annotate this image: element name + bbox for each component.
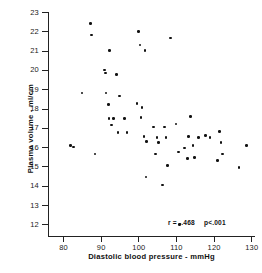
data-point (143, 135, 146, 138)
data-point (186, 157, 189, 160)
scatter-plot-figure: 121314151617181920212223 809010011012013… (0, 0, 262, 273)
data-point (136, 102, 139, 105)
data-point (221, 153, 224, 156)
data-point (163, 126, 166, 129)
data-point (107, 103, 110, 106)
y-axis-tick-label: 12 (30, 221, 39, 229)
data-point (117, 131, 120, 134)
data-point (216, 159, 219, 162)
statistics-annotation: r = -.468p<.001 (168, 219, 226, 226)
data-point (140, 116, 143, 119)
data-point (193, 156, 196, 159)
data-point (183, 147, 186, 150)
y-axis-tick: 17 (42, 128, 48, 129)
data-point (218, 130, 221, 133)
data-point (103, 69, 106, 72)
y-axis-tick: 20 (42, 70, 48, 71)
data-point (166, 164, 169, 167)
x-axis-tick-label: 100 (132, 244, 145, 252)
x-axis-tick-label: 90 (97, 244, 106, 252)
data-point (108, 49, 111, 52)
x-axis-tick: 100 (138, 236, 139, 242)
data-point (145, 140, 148, 143)
y-axis-tick: 12 (42, 224, 48, 225)
data-point (141, 106, 144, 109)
data-point (187, 135, 190, 138)
data-point (110, 124, 113, 127)
x-axis-tick-label: 120 (208, 244, 221, 252)
data-point (144, 49, 147, 52)
x-axis-tick: 120 (214, 236, 215, 242)
data-point (209, 136, 212, 139)
data-point (112, 117, 115, 120)
data-point (105, 92, 108, 95)
data-point (104, 72, 107, 75)
x-axis-tick: 80 (63, 236, 64, 242)
data-point (145, 176, 148, 179)
data-points-layer (0, 0, 262, 273)
data-point (161, 184, 164, 187)
y-axis-title: Plasma volume - ml/cm (26, 49, 35, 209)
data-point (69, 144, 72, 147)
x-axis-tick: 110 (176, 236, 177, 242)
data-point (152, 126, 155, 129)
x-axis-line (48, 236, 255, 237)
data-point (123, 117, 126, 120)
data-point (165, 136, 168, 139)
data-point (72, 146, 75, 149)
pvalue-text: p<.001 (204, 219, 226, 226)
data-point (238, 166, 241, 169)
data-point (94, 153, 97, 156)
x-axis-tick: 90 (101, 236, 102, 242)
data-point (139, 44, 142, 47)
data-point (220, 141, 223, 144)
data-point (137, 30, 140, 33)
y-axis-tick: 18 (42, 109, 48, 110)
y-axis-tick: 22 (42, 31, 48, 32)
y-axis-line (48, 12, 49, 236)
data-point (189, 115, 192, 118)
x-axis-tick-label: 130 (245, 244, 258, 252)
data-point (89, 22, 92, 25)
y-axis-tick-label: 22 (30, 28, 39, 36)
data-point (154, 153, 157, 156)
data-point (126, 131, 129, 134)
data-point (108, 117, 111, 120)
y-axis-tick: 21 (42, 51, 48, 52)
y-axis-tick: 23 (42, 12, 48, 13)
x-axis-tick-label: 80 (59, 244, 68, 252)
data-point (204, 134, 207, 137)
data-point (115, 73, 118, 76)
data-point (177, 151, 180, 154)
y-axis-tick: 13 (42, 205, 48, 206)
data-point (169, 37, 172, 40)
data-point (157, 141, 160, 144)
data-point (192, 144, 195, 147)
data-point (175, 123, 178, 126)
data-point (90, 34, 93, 37)
y-axis-tick: 14 (42, 186, 48, 187)
data-point (245, 144, 248, 147)
y-axis-tick: 16 (42, 147, 48, 148)
y-axis-tick: 19 (42, 89, 48, 90)
data-point (156, 136, 159, 139)
x-axis-tick-label: 110 (170, 244, 183, 252)
data-point (197, 136, 200, 139)
x-axis-tick: 130 (251, 236, 252, 242)
y-axis-tick: 15 (42, 166, 48, 167)
y-axis-tick-label: 23 (30, 9, 39, 17)
correlation-value: r = -.468 (168, 219, 195, 226)
data-point (81, 92, 84, 95)
x-axis-title: Diastolic blood pressure - mmHg (48, 252, 255, 261)
data-point (118, 95, 121, 98)
